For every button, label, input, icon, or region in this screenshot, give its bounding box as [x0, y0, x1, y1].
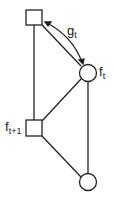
edge-gt-arc [47, 23, 82, 62]
node-top-square [26, 10, 42, 25]
node-ft-circle [80, 65, 97, 82]
edge-label-gt: gt [67, 24, 77, 40]
node-label-ft1: ft+1 [5, 120, 21, 136]
arrow-head-icon [79, 59, 84, 64]
node-bottom-circle [80, 174, 97, 191]
node-ft1-square [26, 120, 42, 136]
edge-ft1-to-bottom [42, 136, 81, 177]
node-label-ft: ft [99, 65, 105, 81]
diagram-canvas [0, 0, 114, 202]
edge-label-sub: t [74, 30, 77, 40]
node-label-sub: t+1 [9, 126, 22, 136]
edge-ft-to-ft1 [42, 79, 81, 121]
node-label-sub: t [103, 71, 106, 81]
